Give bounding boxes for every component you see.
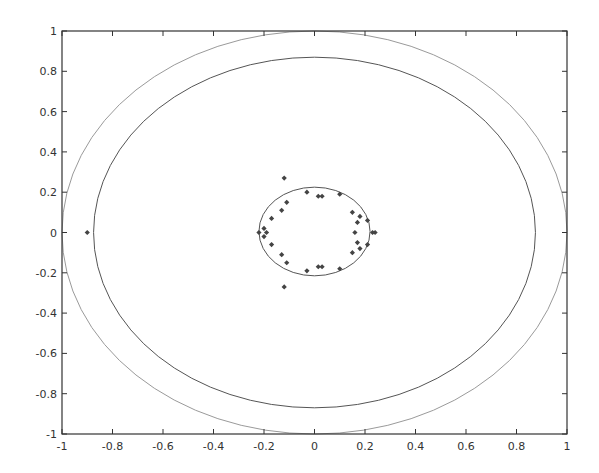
x-tick-label: 0.8 bbox=[508, 440, 526, 453]
data-point bbox=[319, 194, 324, 199]
y-tick-label: -0.4 bbox=[36, 307, 57, 320]
y-tick-label: -1 bbox=[46, 428, 57, 441]
x-tick-label: -0.8 bbox=[102, 440, 123, 453]
ellipse-curves bbox=[62, 31, 567, 434]
y-tick-label: 0.2 bbox=[40, 186, 58, 199]
x-tick-label: -0.4 bbox=[203, 440, 224, 453]
outer-circle bbox=[62, 31, 567, 434]
data-point bbox=[284, 200, 289, 205]
data-point bbox=[282, 284, 287, 289]
x-tick-label: 0.6 bbox=[457, 440, 475, 453]
data-point bbox=[355, 220, 360, 225]
scatter-chart: -1-0.8-0.6-0.4-0.200.20.40.60.81 10.80.6… bbox=[0, 0, 599, 473]
data-point bbox=[264, 230, 269, 235]
data-point bbox=[256, 230, 261, 235]
y-tick-label: 0.8 bbox=[40, 65, 58, 78]
y-tick-label: 0 bbox=[50, 227, 57, 240]
data-point bbox=[304, 268, 309, 273]
data-point bbox=[269, 242, 274, 247]
x-tick-label: -0.2 bbox=[253, 440, 274, 453]
x-axis-ticks: -1-0.8-0.6-0.4-0.200.20.40.60.81 bbox=[57, 31, 571, 453]
y-tick-label: 0.4 bbox=[40, 146, 58, 159]
data-points bbox=[85, 175, 378, 289]
plot-frame bbox=[62, 31, 567, 434]
data-point bbox=[304, 190, 309, 195]
data-point bbox=[261, 226, 266, 231]
y-tick-label: -0.8 bbox=[36, 388, 57, 401]
middle-circle bbox=[94, 57, 536, 408]
data-point bbox=[319, 264, 324, 269]
x-tick-label: 0 bbox=[311, 440, 318, 453]
data-point bbox=[261, 234, 266, 239]
y-tick-label: -0.6 bbox=[36, 347, 57, 360]
data-point bbox=[85, 230, 90, 235]
y-axis-ticks: 10.80.60.40.20-0.2-0.4-0.6-0.8-1 bbox=[36, 25, 567, 441]
data-point bbox=[282, 175, 287, 180]
data-point bbox=[350, 210, 355, 215]
data-point bbox=[357, 246, 362, 251]
data-point bbox=[279, 252, 284, 257]
data-point bbox=[355, 240, 360, 245]
y-tick-label: 0.6 bbox=[40, 106, 58, 119]
data-point bbox=[365, 242, 370, 247]
data-point bbox=[350, 250, 355, 255]
data-point bbox=[279, 208, 284, 213]
x-tick-label: 1 bbox=[564, 440, 571, 453]
data-point bbox=[352, 230, 357, 235]
y-tick-label: 1 bbox=[50, 25, 57, 38]
x-tick-label: -0.6 bbox=[152, 440, 173, 453]
data-point bbox=[357, 214, 362, 219]
data-point bbox=[284, 260, 289, 265]
data-point bbox=[269, 216, 274, 221]
y-tick-label: -0.2 bbox=[36, 267, 57, 280]
x-tick-label: 0.2 bbox=[356, 440, 374, 453]
x-tick-label: 0.4 bbox=[407, 440, 425, 453]
x-tick-label: -1 bbox=[57, 440, 68, 453]
